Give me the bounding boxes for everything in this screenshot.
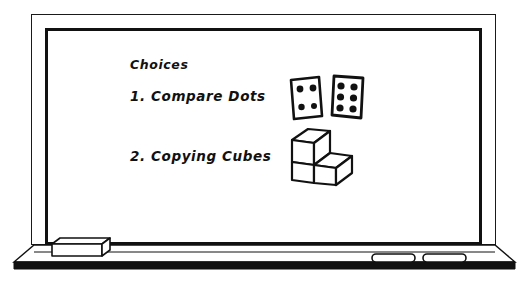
eraser-icon[interactable] <box>50 236 112 264</box>
whiteboard-choice-1[interactable]: 1. Compare Dots <box>130 88 266 104</box>
whiteboard-writing-area: Choices 1. Compare Dots 2. Copying Cubes <box>48 31 479 242</box>
whiteboard-title: Choices <box>130 57 188 72</box>
whiteboard-choice-2[interactable]: 2. Copying Cubes <box>130 148 271 164</box>
marker-1 <box>372 254 415 262</box>
dice-pair-icon <box>283 71 369 131</box>
whiteboard-scene: Choices 1. Compare Dots 2. Copying Cubes <box>0 0 529 284</box>
cube-stack-icon <box>286 123 362 191</box>
marker-2 <box>423 254 466 262</box>
markers-group[interactable] <box>371 250 467 269</box>
whiteboard-surface[interactable]: Choices 1. Compare Dots 2. Copying Cubes <box>45 28 482 245</box>
